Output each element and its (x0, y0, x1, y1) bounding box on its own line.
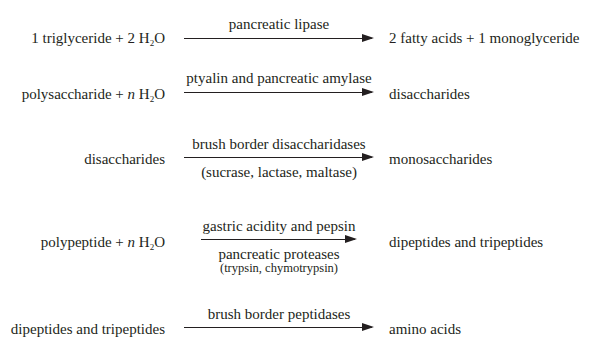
variable-n: n (128, 86, 136, 102)
reaction-2-arrow-icon (184, 92, 372, 93)
reactant-text: polypeptide + (41, 234, 128, 250)
variable-n: n (128, 234, 136, 250)
reaction-5-enzyme: brush border peptidases (184, 305, 374, 323)
reactant-text: O (154, 234, 165, 250)
reaction-5-arrow-icon (184, 327, 372, 328)
reactant-text: O (154, 86, 165, 102)
reaction-2-enzyme: ptyalin and pancreatic amylase (184, 69, 374, 87)
reaction-1-products: 2 fatty acids + 1 monoglyceride (389, 29, 580, 47)
reaction-5-reactants: dipeptides and tripeptides (11, 320, 165, 338)
reaction-3-arrow-icon (184, 157, 372, 158)
reaction-3-reactants: disaccharides (84, 150, 165, 168)
reaction-5-products: amino acids (389, 320, 461, 338)
reaction-4-enzyme: gastric acidity and pepsin (200, 217, 358, 235)
reaction-1-enzyme: pancreatic lipase (184, 15, 374, 33)
reaction-4-arrow-icon (201, 239, 355, 240)
reactant-text: H (135, 234, 150, 250)
reaction-2-reactants: polysaccharide + n H2O (22, 85, 165, 103)
reaction-4-enzyme-note: (trypsin, chymotrypsin) (200, 261, 358, 276)
reaction-4-reactants: polypeptide + n H2O (41, 233, 165, 251)
reactant-text: disaccharides (84, 151, 165, 167)
reactant-text: H (135, 86, 150, 102)
reaction-3-products: monosaccharides (389, 150, 492, 168)
reaction-1-arrow-icon (184, 38, 372, 39)
reactant-text: dipeptides and tripeptides (11, 321, 165, 337)
reactant-text: polysaccharide + (22, 86, 128, 102)
reactant-text: 1 triglyceride + 2 H (31, 30, 149, 46)
reaction-1-reactants: 1 triglyceride + 2 H2O (31, 29, 165, 47)
reaction-4-products: dipeptides and tripeptides (389, 233, 543, 251)
reaction-3-enzyme: brush border disaccharidases (184, 135, 374, 153)
reaction-3-enzyme-note: (sucrase, lactase, maltase) (184, 163, 374, 181)
reaction-2-products: disaccharides (389, 85, 470, 103)
reactant-text: O (154, 30, 165, 46)
